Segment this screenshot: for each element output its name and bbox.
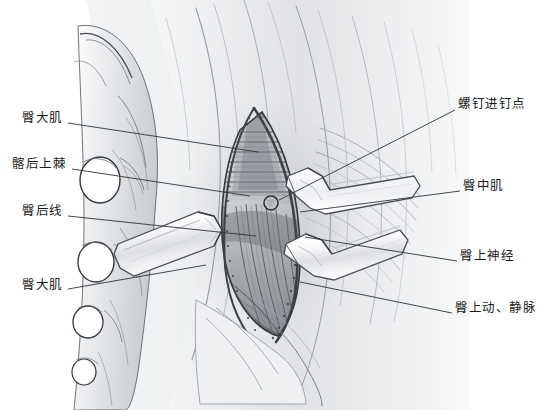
label-posterior-gluteal-line: 臀后线 bbox=[22, 204, 63, 218]
anatomical-figure: 臀大肌 髂后上棘 臀后线 臀大肌 螺钉进钉点 臀中肌 臀上神经 臀上动、静脉 bbox=[0, 0, 537, 410]
label-gluteus-maximus-upper: 臀大肌 bbox=[22, 111, 63, 125]
illustration-canvas bbox=[0, 0, 537, 410]
label-superior-gluteal-nerve: 臀上神经 bbox=[460, 249, 514, 263]
label-gluteus-medius: 臀中肌 bbox=[463, 179, 504, 193]
label-posterior-superior-iliac-spine: 髂后上棘 bbox=[12, 157, 66, 171]
label-gluteus-maximus-lower: 臀大肌 bbox=[22, 278, 63, 292]
label-screw-entry-point: 螺钉进钉点 bbox=[458, 97, 526, 111]
screw-entry-point-fill bbox=[267, 199, 275, 207]
label-superior-gluteal-artery-vein: 臀上动、静脉 bbox=[455, 301, 536, 315]
